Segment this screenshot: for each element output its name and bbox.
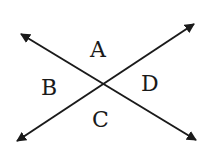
intersecting-lines-diagram: A B C D [0,0,206,148]
diagram-canvas: A B C D [0,0,206,148]
angle-label-a: A [89,37,107,62]
angle-label-c: C [92,107,109,132]
angle-label-b: B [41,75,57,100]
angle-label-d: D [141,71,159,96]
